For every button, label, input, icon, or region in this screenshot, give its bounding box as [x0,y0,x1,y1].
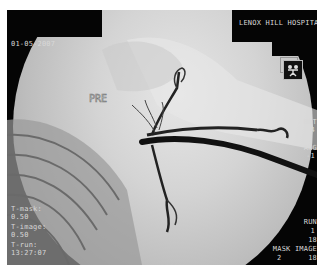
run-value-2: 18 [308,236,317,244]
patient-orientation-icon [283,60,303,80]
t-mask-value: 0.50 [11,213,29,221]
t-image-label: T-image: [11,223,46,231]
pre-marker-text: PRE [89,93,107,104]
t-run-label: T-run: [11,241,38,249]
mask-top-right-step [272,42,317,56]
date-text: 01-05-2007 [11,40,55,48]
mask-image-value-b: 18 [308,254,317,262]
anatomy-image: PRE [7,10,317,265]
ang-value: -1 [306,152,315,160]
ang-label: ANG [304,144,317,152]
t-image-value: 0.50 [11,231,29,239]
run-value-1: 1 [311,227,315,235]
t-run-value: 13:27:07 [11,249,46,257]
angiogram-frame: PRE 01-05-2007 LENOX HILL HOSPITAL T-mas… [7,10,317,265]
rot-value: 4 [311,126,315,134]
rot-label: ROT [304,118,317,126]
run-label: RUN [304,218,317,226]
mask-image-label: MASK IMAGE [273,245,317,253]
t-mask-label: T-mask: [11,205,42,213]
mask-image-value-a: 2 [277,254,281,262]
mask-top-left [7,10,102,37]
institution-text: LENOX HILL HOSPITAL [239,19,317,27]
